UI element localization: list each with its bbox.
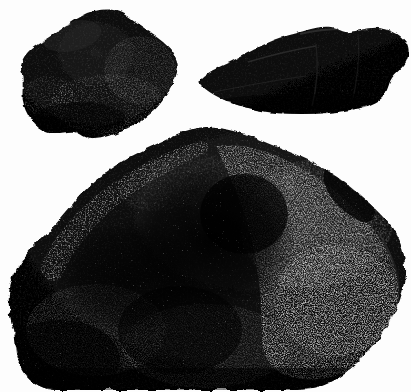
specimen-upper-left-shadow [34,102,126,134]
specimen-photo-canvas [0,0,411,392]
specimen-photo-plate: Three irregular black rock specimens pho… [0,0,411,392]
